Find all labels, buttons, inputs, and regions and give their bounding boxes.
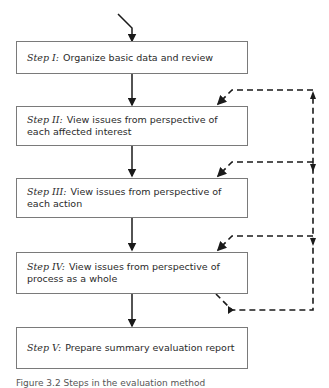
loop-up-arrowhead <box>310 91 316 99</box>
step-text: Organize basic data and review <box>63 52 213 63</box>
step-label: Step III: <box>27 186 67 197</box>
step-label: Step I: <box>27 52 59 63</box>
step-label: Step IV: <box>27 261 65 272</box>
loop-arrowhead-3 <box>310 238 316 246</box>
step-box-5: Step V:Prepare summary evaluation report <box>16 327 248 369</box>
step-box-1: Step I:Organize basic data and review <box>16 41 248 74</box>
entry-arrow <box>118 14 132 41</box>
feedback-to-step2 <box>218 90 313 104</box>
step-text: Prepare summary evaluation report <box>65 342 234 353</box>
step-box-3: Step III:View issues from perspective of… <box>16 178 248 218</box>
figure-caption: Figure 3.2 Steps in the evaluation metho… <box>16 378 205 388</box>
loop-return-arrowhead <box>228 306 234 314</box>
step-box-4: Step IV:View issues from perspective of … <box>16 252 248 294</box>
loop-arrowhead-2 <box>310 164 316 172</box>
step-label: Step II: <box>27 114 63 125</box>
feedback-to-step3 <box>218 162 313 176</box>
feedback-to-step4 <box>218 236 313 250</box>
step-box-2: Step II:View issues from perspective of … <box>16 106 248 146</box>
step-label: Step V: <box>27 342 61 353</box>
